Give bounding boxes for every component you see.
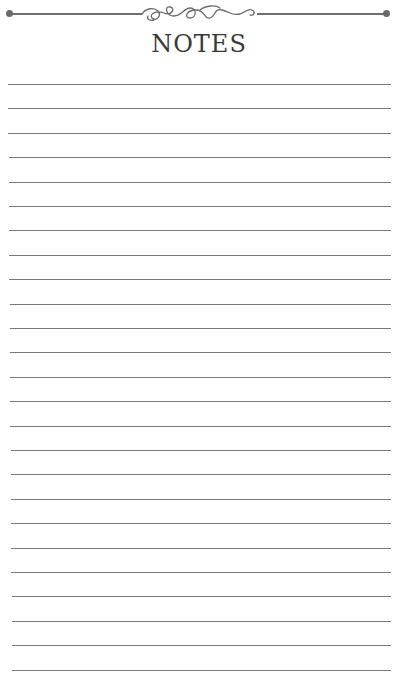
writing-line <box>11 450 391 451</box>
writing-line <box>9 230 391 231</box>
writing-line <box>10 304 391 305</box>
writing-line <box>10 426 391 427</box>
writing-line <box>11 572 391 573</box>
writing-line <box>9 279 391 280</box>
writing-line <box>10 401 391 402</box>
writing-line <box>11 474 391 475</box>
writing-line <box>10 352 391 353</box>
ruled-lines <box>0 0 398 682</box>
writing-line <box>8 133 391 134</box>
writing-line <box>9 157 391 158</box>
writing-line <box>9 255 391 256</box>
writing-line <box>8 108 391 109</box>
writing-line <box>8 84 391 85</box>
writing-line <box>12 596 391 597</box>
writing-line <box>12 645 391 646</box>
writing-line <box>11 499 391 500</box>
writing-line <box>12 670 391 671</box>
writing-line <box>10 328 391 329</box>
writing-line <box>11 548 391 549</box>
writing-line <box>10 377 391 378</box>
writing-line <box>9 206 391 207</box>
writing-line <box>12 621 391 622</box>
notes-page: NOTES <box>0 0 398 682</box>
writing-line <box>11 523 391 524</box>
writing-line <box>9 182 391 183</box>
